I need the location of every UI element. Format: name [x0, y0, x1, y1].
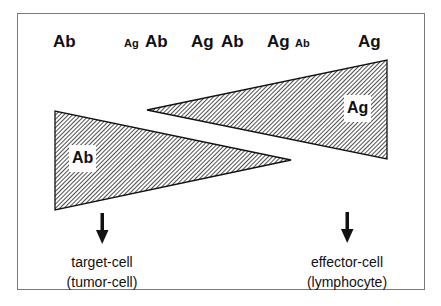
- effector-cell-line1: effector-cell: [277, 252, 417, 272]
- effector-cell-line2: (lymphocyte): [277, 272, 417, 292]
- antigen-wedge-label: Ag: [344, 95, 371, 122]
- target-cell-line1: target-cell: [32, 252, 172, 272]
- down-arrow-icon: [96, 213, 109, 244]
- down-arrow-icon: [341, 212, 354, 243]
- target-cell-line2: (tumor-cell): [32, 272, 172, 292]
- effector-cell-label: effector-cell (lymphocyte): [277, 252, 417, 292]
- target-cell-label: target-cell (tumor-cell): [32, 252, 172, 292]
- antibody-wedge-label: Ab: [69, 145, 96, 172]
